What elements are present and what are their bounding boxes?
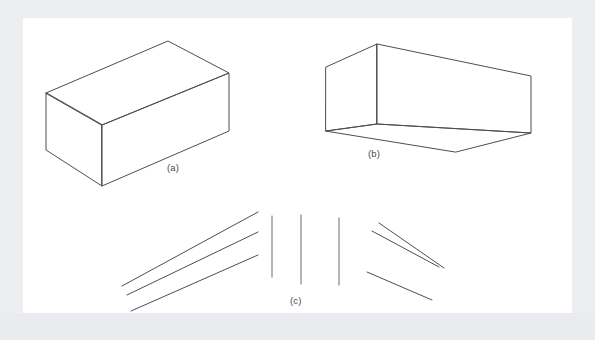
box-b-wireframe: [326, 44, 531, 152]
panel-label-c: (c): [290, 295, 302, 306]
box-b-back-face: [377, 44, 531, 133]
c-left-line-1: [122, 212, 258, 286]
c-right-line-1: [379, 223, 444, 268]
panel-label-b: (b): [368, 148, 380, 159]
panel-label-a: (a): [167, 162, 179, 173]
figure-line-drawing-canvas: [0, 0, 595, 340]
box-a-left-face: [46, 93, 102, 186]
c-left-line-3: [131, 255, 258, 311]
box-a-top-face: [46, 41, 229, 125]
c-middle-vertical-line-group: [272, 215, 339, 285]
c-right-line-2: [372, 231, 439, 267]
c-right-converging-line-group: [367, 223, 444, 300]
box-a-front-face: [102, 73, 229, 186]
c-right-line-3: [367, 272, 432, 300]
figure-root: (a) (b) (c): [0, 0, 595, 340]
box-a-wireframe: [46, 41, 229, 186]
scanned-page-bottom-band: [0, 313, 595, 340]
c-left-diverging-line-group: [122, 212, 258, 311]
box-b-bottom-face: [326, 124, 531, 152]
box-b-left-face: [326, 44, 377, 131]
